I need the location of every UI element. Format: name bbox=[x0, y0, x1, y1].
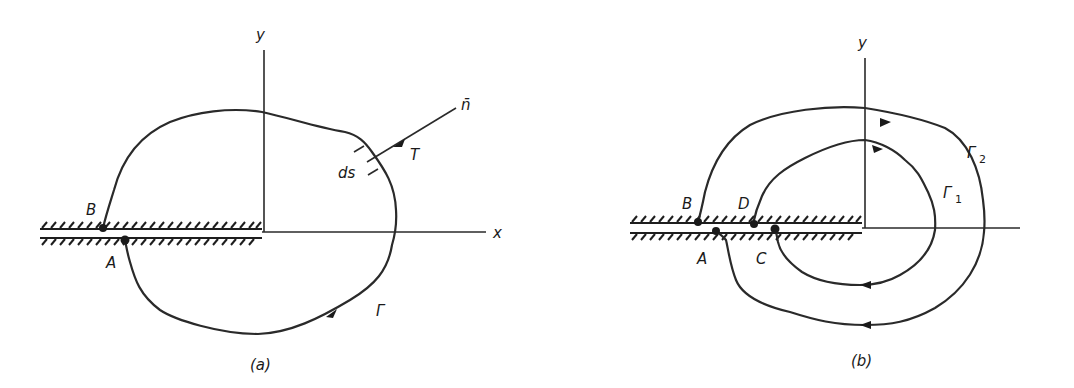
figure-b: y bbox=[630, 34, 1020, 370]
point-a-label-b: A bbox=[696, 250, 707, 268]
crack-walls-b bbox=[630, 216, 862, 240]
y-axis-label-b: y bbox=[857, 34, 868, 52]
contour-gamma bbox=[103, 110, 396, 334]
traction-label: T bbox=[410, 146, 421, 164]
contour-gamma-2-subscript: 2 bbox=[979, 153, 986, 166]
y-axis-label: y bbox=[255, 26, 266, 44]
contour-gamma-2 bbox=[698, 107, 985, 325]
contour-gamma-1-label: Γ bbox=[943, 184, 953, 202]
contour-gamma-2-label: Γ bbox=[967, 144, 977, 162]
hatch-upper bbox=[42, 222, 261, 228]
point-c-label: C bbox=[756, 250, 767, 268]
gamma-2-bottom-arrow-icon bbox=[860, 321, 871, 329]
hatch-upper-b bbox=[632, 216, 861, 222]
hatch-lower-b bbox=[632, 234, 853, 240]
diagram-canvas: x y bbox=[0, 0, 1074, 388]
contour-gamma-1-subscript: 1 bbox=[955, 193, 962, 206]
figure-a-caption: (a) bbox=[250, 356, 271, 374]
ds-label: ds bbox=[338, 164, 356, 182]
point-a-marker-b bbox=[712, 227, 720, 235]
figure-a: x y bbox=[40, 26, 502, 374]
point-a-label: A bbox=[105, 254, 116, 272]
normal-label: n̄ bbox=[461, 96, 471, 114]
point-d-marker bbox=[750, 220, 758, 228]
ds-tick-upper bbox=[354, 146, 364, 152]
point-b-label: B bbox=[86, 201, 96, 219]
point-b-marker-b bbox=[694, 218, 702, 226]
point-d-label: D bbox=[738, 195, 750, 213]
hatch-lower bbox=[42, 239, 254, 245]
crack-walls bbox=[40, 222, 262, 245]
ds-tick-lower bbox=[368, 169, 378, 175]
gamma-1-top-arrow-icon bbox=[872, 145, 883, 153]
gamma-1-bottom-arrow-icon bbox=[860, 281, 871, 289]
contour-gamma-label: Γ bbox=[376, 302, 386, 320]
point-a-marker bbox=[121, 236, 130, 245]
x-axis-label: x bbox=[492, 224, 502, 242]
point-b-label-b: B bbox=[682, 195, 692, 213]
point-c-marker bbox=[771, 225, 780, 234]
contour-gamma-1 bbox=[753, 140, 935, 285]
gamma-2-top-arrow-icon bbox=[880, 118, 891, 127]
figure-b-caption: (b) bbox=[851, 352, 872, 370]
point-b-marker bbox=[99, 224, 107, 232]
